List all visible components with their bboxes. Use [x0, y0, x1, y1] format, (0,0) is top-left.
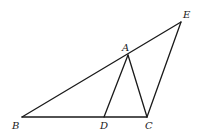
- diagram-svg: A B C D E: [0, 0, 201, 135]
- point-label-d: D: [99, 120, 108, 131]
- segments-group: [22, 22, 181, 117]
- point-label-c: C: [145, 120, 153, 131]
- geometry-diagram: A B C D E: [0, 0, 201, 135]
- segment-be: [22, 22, 181, 117]
- segment-ce: [147, 22, 181, 117]
- segment-ad: [104, 55, 128, 117]
- segment-ac: [128, 55, 147, 117]
- point-label-e: E: [182, 9, 191, 20]
- point-label-b: B: [11, 120, 19, 131]
- point-label-a: A: [121, 42, 129, 53]
